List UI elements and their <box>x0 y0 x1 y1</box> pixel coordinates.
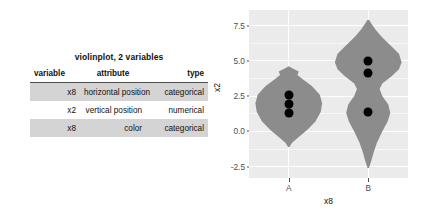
y-tick-label: 7.5 <box>233 21 245 31</box>
data-point <box>284 109 293 118</box>
column-header-attribute: attribute <box>80 67 146 83</box>
cell-variable: x8 <box>30 119 80 137</box>
table-title: violinplot, 2 variables <box>30 52 208 62</box>
cell-type: categorical <box>146 83 208 102</box>
y-tick-label: 0.0 <box>233 126 245 136</box>
violin-shapes <box>249 10 408 178</box>
y-tick-label: 2.5 <box>233 91 245 101</box>
data-point <box>364 108 373 117</box>
column-header-type: type <box>146 67 208 83</box>
cell-variable: x8 <box>30 83 80 102</box>
data-point <box>364 56 373 65</box>
cell-attribute: horizontal position <box>80 83 146 102</box>
cell-variable: x2 <box>30 101 80 119</box>
x-tick-label: B <box>365 183 371 193</box>
cell-type: categorical <box>146 119 208 137</box>
variable-table: variable attribute type x8 horizontal po… <box>30 67 208 137</box>
column-header-variable: variable <box>30 67 80 83</box>
cell-type: numerical <box>146 101 208 119</box>
screenshot-root: violinplot, 2 variables variable attribu… <box>0 0 429 216</box>
x-tick-mark <box>289 178 290 182</box>
table-row: x8 horizontal position categorical <box>30 83 208 102</box>
y-tick-label: 5.0 <box>233 56 245 66</box>
data-point <box>364 68 373 77</box>
plot-panel <box>249 10 408 178</box>
x-axis-label: x8 <box>249 196 408 206</box>
violin-chart: x2 7.55.02.50.0-2.5 AB x8 <box>208 4 422 212</box>
x-tick-label: A <box>286 183 292 193</box>
y-tick-label: -2.5 <box>231 162 245 172</box>
variable-table-panel: violinplot, 2 variables variable attribu… <box>30 52 208 137</box>
data-point <box>284 90 293 99</box>
violin-B <box>335 20 402 168</box>
table-header-row: variable attribute type <box>30 67 208 83</box>
data-point <box>284 99 293 108</box>
table-row: x2 vertical position numerical <box>30 101 208 119</box>
y-axis-ticks: 7.55.02.50.0-2.5 <box>218 4 252 212</box>
cell-attribute: vertical position <box>80 101 146 119</box>
x-tick-mark <box>368 178 369 182</box>
table-row: x8 color categorical <box>30 119 208 137</box>
cell-attribute: color <box>80 119 146 137</box>
